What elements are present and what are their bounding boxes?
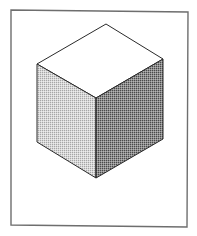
cube-illustration (0, 0, 197, 236)
